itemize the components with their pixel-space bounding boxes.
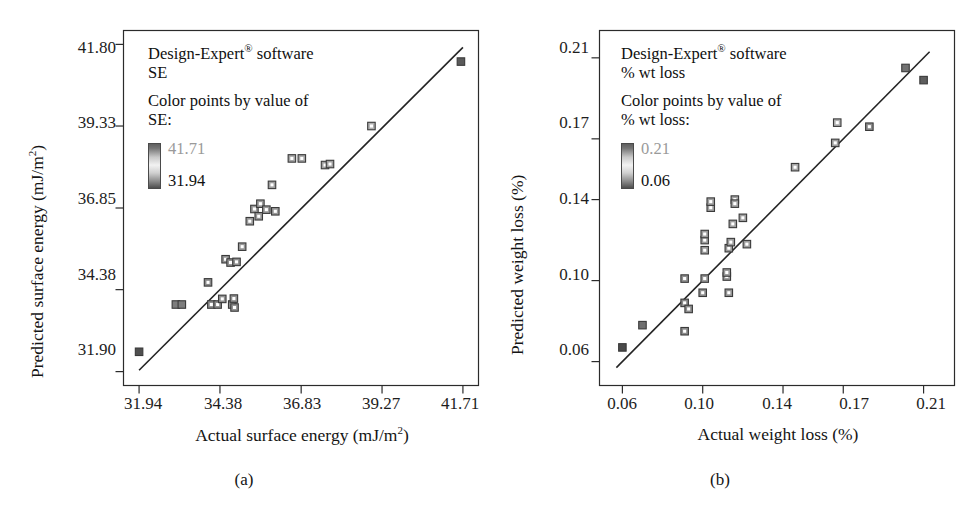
scatter-point (902, 64, 910, 72)
x-tick-label: 36.83 (262, 394, 342, 414)
legend-color-by-line: Color points by value of (148, 91, 314, 110)
scatter-point-core (703, 232, 706, 235)
scatter-point (178, 301, 186, 309)
scatter-point-core (683, 277, 686, 280)
panel-caption: (b) (645, 470, 795, 490)
colorbar-low-value: 31.94 (168, 173, 205, 190)
colorbar-labels: 0.21 0.06 (641, 141, 670, 189)
x-tick-label: 0.14 (737, 394, 817, 414)
scatter-point-core (274, 210, 277, 213)
y-axis-title: Predicted surface energy (mJ/m2) (26, 145, 48, 378)
x-tick-label: 31.94 (103, 394, 183, 414)
panel-b: 0.21 0.17 0.14 0.10 0.06 0.06 0.10 0.14 … (489, 0, 978, 519)
legend-color-by-response: SE: (148, 110, 314, 129)
legend-software-line: Design-Expert® software (148, 42, 314, 63)
scatter-point-core (701, 291, 704, 294)
scatter-point-core (741, 216, 744, 219)
scatter-point-core (733, 202, 736, 205)
x-axis-title-text: Actual surface energy (mJ/m (195, 425, 397, 445)
legend-software-suffix: software (726, 44, 787, 63)
legend-colorbar-group: 41.71 31.94 (148, 141, 205, 189)
registered-mark-icon: ® (244, 42, 252, 54)
scatter-point-core (210, 303, 213, 306)
colorbar-gradient-icon (621, 143, 634, 189)
scatter-point-core (794, 166, 797, 169)
scatter-point-core (834, 141, 837, 144)
x-axis-title-tail: ) (403, 425, 409, 445)
scatter-point-core (216, 303, 219, 306)
scatter-point-core (259, 202, 262, 205)
figure-container: 41.80 39.33 36.85 34.38 31.90 31.94 34.3… (0, 0, 978, 519)
scatter-point-core (270, 183, 273, 186)
scatter-point-core (328, 162, 331, 165)
scatter-point-core (709, 206, 712, 209)
legend-text-block: Design-Expert® software SE Color points … (148, 42, 314, 129)
scatter-point-core (725, 271, 728, 274)
scatter-point-core (687, 307, 690, 310)
x-tick-label: 41.71 (420, 394, 500, 414)
scatter-point-core (221, 297, 224, 300)
scatter-point-core (727, 247, 730, 250)
scatter-point-core (868, 125, 871, 128)
scatter-point-core (232, 297, 235, 300)
scatter-point-core (703, 277, 706, 280)
scatter-point-core (290, 157, 293, 160)
x-tick-label: 0.10 (659, 394, 739, 414)
legend-response-name: % wt loss (621, 63, 787, 82)
legend-spacer (621, 82, 787, 91)
scatter-point-core (248, 220, 251, 223)
x-tick-label: 34.38 (183, 394, 263, 414)
y-axis-title: Predicted weight loss (%) (507, 175, 528, 355)
scatter-point-core (233, 306, 236, 309)
colorbar-high-value: 41.71 (168, 141, 205, 158)
scatter-point (639, 321, 647, 329)
scatter-point-core (703, 239, 706, 242)
registered-mark-icon: ® (717, 42, 725, 54)
x-tick-label: 0.17 (814, 394, 894, 414)
scatter-point-core (265, 208, 268, 211)
x-tick-label: 0.06 (582, 394, 662, 414)
panel-a: 41.80 39.33 36.85 34.38 31.90 31.94 34.3… (0, 0, 489, 519)
legend-colorbar-group: 0.21 0.06 (621, 141, 670, 189)
y-tick-label: 0.21 (499, 38, 589, 58)
x-tick-label: 39.27 (341, 394, 421, 414)
y-tick-label: 41.80 (18, 38, 116, 58)
panel-caption: (a) (169, 470, 319, 490)
scatter-point-core (370, 124, 373, 127)
x-axis-title: Actual surface energy (mJ/m2) (124, 424, 480, 446)
y-tick-label: 39.33 (18, 113, 116, 133)
scatter-point-core (727, 291, 730, 294)
legend-color-by-response: % wt loss: (621, 110, 787, 129)
scatter-point-core (257, 215, 260, 218)
colorbar-gradient-icon (148, 143, 161, 189)
scatter-point-core (206, 281, 209, 284)
scatter-point-core (241, 245, 244, 248)
scatter-point-core (836, 121, 839, 124)
scatter-point (619, 344, 627, 352)
scatter-point-core (300, 157, 303, 160)
scatter-point-core (731, 222, 734, 225)
scatter-point (457, 58, 465, 66)
y-tick-label: 0.17 (499, 113, 589, 133)
scatter-point (920, 76, 928, 84)
scatter-point-core (709, 200, 712, 203)
scatter-point-core (683, 330, 686, 333)
y-axis-title-tail: ) (27, 145, 47, 151)
legend-software-suffix: software (253, 44, 314, 63)
legend-software-line: Design-Expert® software (621, 42, 787, 63)
y-axis-title-superscript: 2 (26, 151, 38, 157)
x-axis-title: Actual weight loss (%) (600, 424, 956, 445)
scatter-point-core (703, 249, 706, 252)
scatter-point-core (229, 261, 232, 264)
legend-spacer (148, 82, 314, 91)
legend-color-by-line: Color points by value of (621, 91, 787, 110)
legend-text-block: Design-Expert® software % wt loss Color … (621, 42, 787, 129)
scatter-point-core (235, 260, 238, 263)
scatter-point (135, 348, 143, 356)
scatter-point-core (729, 241, 732, 244)
legend-software-name: Design-Expert (621, 44, 717, 63)
scatter-point-core (745, 243, 748, 246)
colorbar-high-value: 0.21 (641, 141, 670, 158)
legend-software-name: Design-Expert (148, 44, 244, 63)
scatter-point-core (253, 207, 256, 210)
